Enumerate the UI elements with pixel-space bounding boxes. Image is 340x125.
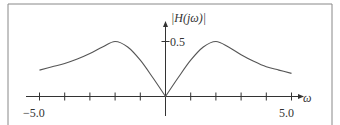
x-axis-label: ω (303, 91, 311, 105)
magnitude-response-plot: |H(jω)| 0.5 ω −5.0 5.0 (0, 0, 340, 125)
chart-figure: |H(jω)| 0.5 ω −5.0 5.0 (0, 0, 340, 125)
y-axis-label: |H(jω)| (171, 11, 206, 25)
y-tick-label: 0.5 (170, 35, 185, 49)
y-axis-arrow-icon (163, 21, 168, 27)
axes (26, 21, 304, 116)
x-min-label: −5.0 (23, 106, 45, 120)
x-max-label: 5.0 (279, 106, 294, 120)
